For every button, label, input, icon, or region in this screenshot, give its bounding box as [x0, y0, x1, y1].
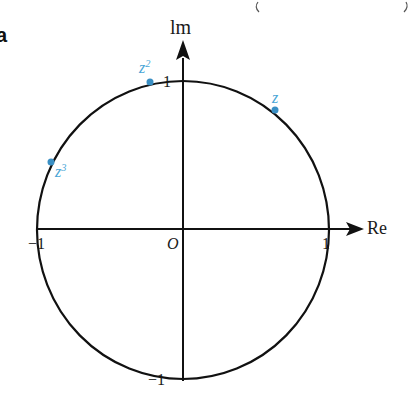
- diagram-canvas: [0, 0, 413, 400]
- real-axis-label: Re: [367, 219, 387, 237]
- tick-label-x-neg: −1: [28, 236, 45, 252]
- point-z-cubed: [48, 159, 55, 166]
- tick-label-y-pos: 1: [163, 74, 171, 90]
- imaginary-axis-arrow-icon: [176, 40, 190, 60]
- unit-circle-diagram: a lm Re O 1 −1 1 −1 z z2 z3: [0, 0, 413, 400]
- point-label-z-base: z: [272, 89, 278, 106]
- partial-paren-right: [404, 2, 407, 12]
- imaginary-axis-label: lm: [170, 17, 191, 37]
- point-z-squared: [147, 79, 154, 86]
- point-label-z3-exp: 3: [61, 162, 66, 173]
- tick-label-y-neg: −1: [148, 372, 165, 388]
- point-label-z2-exp: 2: [145, 58, 150, 69]
- point-label-z: z: [272, 90, 278, 106]
- partial-paren-left: [256, 2, 259, 12]
- point-label-z-squared: z2: [139, 60, 150, 76]
- origin-label: O: [167, 236, 179, 252]
- point-label-z-cubed: z3: [55, 164, 66, 180]
- point-z: [272, 107, 279, 114]
- tick-label-x-pos: 1: [322, 236, 330, 252]
- panel-label: a: [0, 24, 7, 47]
